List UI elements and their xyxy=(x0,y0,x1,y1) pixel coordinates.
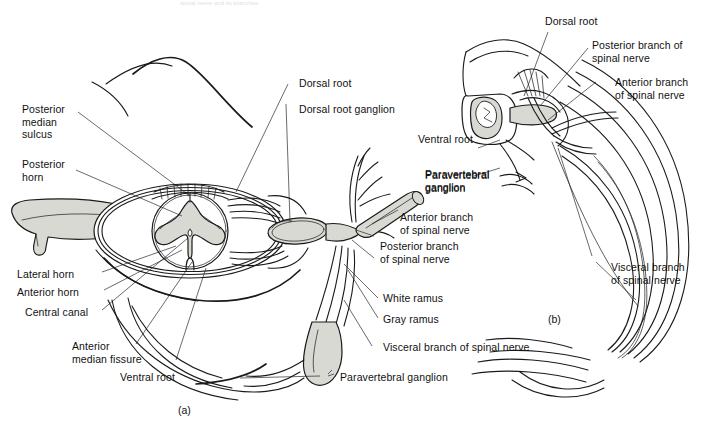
label-dorsal-root-b: Dorsal root xyxy=(545,15,597,28)
panel-a-id: (a) xyxy=(178,404,191,416)
label-posterior-branch-of-spinal-nerve-a: Posterior branch of spinal nerve xyxy=(380,240,459,265)
paravertebral-ganglion-shape xyxy=(303,322,342,385)
label-paravertebral-ganglion-bottom: Paravertebral ganglion xyxy=(340,371,448,384)
panel-b-leaders xyxy=(474,32,636,300)
label-dorsal-root-a: Dorsal root xyxy=(299,77,351,90)
label-anterior-branch-of-spinal-nerve-b: Anterior branch of spinal nerve xyxy=(615,76,688,101)
figure-canvas: spinal nerve and its branches .st{fill:n… xyxy=(0,0,711,439)
label-ventral-root-b: Ventral root xyxy=(418,133,473,146)
label-anterior-branch-of-spinal-nerve-a: Anterior branch of spinal nerve xyxy=(400,211,473,236)
label-posterior-branch-of-spinal-nerve-b: Posterior branch of spinal nerve xyxy=(592,39,683,64)
label-paravertebral-ganglion-b: Paravertebral ganglion xyxy=(425,168,489,193)
thoracic-wall-arcs xyxy=(560,60,689,362)
rami-strands xyxy=(316,246,355,326)
label-central-canal: Central canal xyxy=(25,306,88,319)
label-visceral-branch-of-spinal-nerve-a: Visceral branch of spinal nerve xyxy=(383,341,530,354)
label-anterior-median-fissure: Anterior median fissure xyxy=(72,340,142,365)
label-visceral-branch-of-spinal-nerve-b: Visceral branch of spinal nerve xyxy=(611,261,685,286)
label-anterior-horn: Anterior horn xyxy=(17,286,79,299)
panel-b-id: (b) xyxy=(548,313,561,325)
label-posterior-median-sulcus: Posterior median sulcus xyxy=(22,103,65,141)
label-lateral-horn: Lateral horn xyxy=(17,268,74,281)
label-gray-ramus: Gray ramus xyxy=(383,313,439,326)
label-posterior-horn: Posterior horn xyxy=(22,158,65,183)
label-dorsal-root-ganglion: Dorsal root ganglion xyxy=(299,103,395,116)
dorsal-root-fan-b xyxy=(514,69,548,98)
label-ventral-root-a: Ventral root xyxy=(120,371,175,384)
label-white-ramus: White ramus xyxy=(383,292,443,305)
